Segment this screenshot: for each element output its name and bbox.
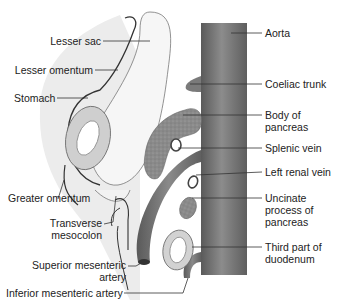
label-superior-mesenteric-2: artery xyxy=(20,272,126,283)
label-greater-omentum: Greater omentum xyxy=(8,193,90,204)
label-uncinate-2: process of xyxy=(265,205,313,216)
label-aorta: Aorta xyxy=(265,28,290,39)
label-transverse-mesocolon-1: Transverse xyxy=(30,218,102,229)
uncinate-process xyxy=(177,195,200,221)
label-lesser-omentum: Lesser omentum xyxy=(8,65,93,76)
label-stomach: Stomach xyxy=(14,93,55,104)
label-duodenum-2: duodenum xyxy=(265,254,315,265)
label-transverse-mesocolon-2: mesocolon xyxy=(30,230,102,241)
label-duodenum-1: Third part of xyxy=(265,242,322,253)
aorta xyxy=(201,23,247,275)
label-body-of-pancreas-1: Body of xyxy=(265,110,301,121)
label-body-of-pancreas-2: pancreas xyxy=(265,122,308,133)
label-uncinate-1: Uncinate xyxy=(265,193,306,204)
left-renal-vein xyxy=(187,175,200,189)
label-superior-mesenteric-1: Superior mesenteric xyxy=(20,260,126,271)
label-lesser-sac: Lesser sac xyxy=(40,36,101,47)
label-inferior-mesenteric-artery: Inferior mesenteric artery xyxy=(6,288,123,299)
label-uncinate-3: pancreas xyxy=(265,217,308,228)
label-coeliac-trunk: Coeliac trunk xyxy=(265,79,326,90)
label-left-renal-vein: Left renal vein xyxy=(265,167,331,178)
label-splenic-vein: Splenic vein xyxy=(265,143,322,154)
splenic-vein xyxy=(171,139,181,151)
